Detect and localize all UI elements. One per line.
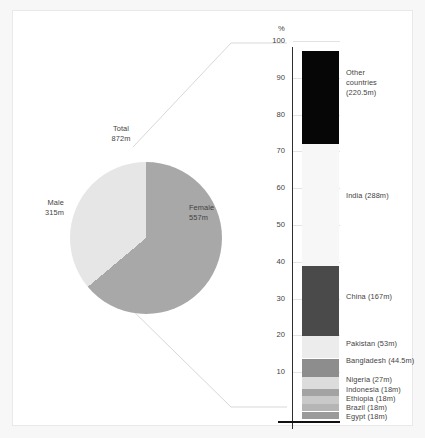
bar-segment-nigeria [302, 377, 339, 388]
bar-label-bangladesh: Bangladesh (44.5m) [346, 356, 418, 365]
bar-label-china: China (167m) [346, 292, 412, 301]
bar-label-nigeria: Nigeria (27m) [346, 375, 416, 384]
bar-label-other-countries-line1: Other [346, 68, 412, 77]
pie-female-value: 557m [189, 213, 249, 222]
bar-label-india: India (288m) [346, 191, 412, 200]
bar-label-brazil: Brazil (18m) [346, 403, 416, 412]
bar-segment-indonesia [302, 389, 339, 397]
bar-segment-brazil [302, 404, 339, 412]
bar-label-ethiopia: Ethiopia (18m) [346, 394, 416, 403]
bar-label-pakistan: Pakistan (53m) [346, 339, 416, 348]
ytick-label-30: 30 [263, 294, 285, 303]
ytick-label-20: 20 [263, 330, 285, 339]
bar-segment-china [302, 266, 339, 337]
x-axis-baseline [278, 421, 340, 423]
bar-label-egypt: Egypt (18m) [346, 412, 416, 421]
chart-canvas: Total 872m Male 315m Female 557m % 100 9… [12, 10, 413, 426]
ytick-label-90: 90 [263, 73, 285, 82]
bar-label-other-countries-line3: (220.5m) [346, 88, 412, 97]
ytick-label-40: 40 [263, 257, 285, 266]
bar-label-other-countries-line2: countries [346, 78, 412, 87]
bar-segment-other-countries [302, 51, 339, 144]
gridline-100 [293, 41, 340, 42]
pie-total-label: Total [91, 124, 151, 133]
axis-unit-symbol: % [278, 24, 292, 33]
ytick-label-100: 100 [263, 36, 285, 45]
bar-label-indonesia: Indonesia (18m) [346, 385, 416, 394]
pie-male-label: Male [13, 198, 64, 207]
ytick-label-60: 60 [263, 183, 285, 192]
gender-pie-chart [70, 162, 222, 314]
ytick-label-70: 70 [263, 146, 285, 155]
ytick-label-10: 10 [263, 367, 285, 376]
ytick-label-50: 50 [263, 220, 285, 229]
bar-segment-bangladesh [302, 359, 339, 378]
ytick-label-80: 80 [263, 110, 285, 119]
bar-segment-egypt [302, 412, 339, 420]
pie-female-label: Female [189, 203, 249, 212]
bar-segment-ethiopia [302, 396, 339, 404]
bar-segment-india [302, 144, 339, 266]
pie-male-value: 315m [13, 208, 64, 217]
pie-total-value: 872m [91, 134, 151, 143]
country-stacked-bar [302, 51, 339, 419]
chart-figure: Total 872m Male 315m Female 557m % 100 9… [0, 0, 425, 438]
bar-segment-pakistan [302, 336, 339, 358]
